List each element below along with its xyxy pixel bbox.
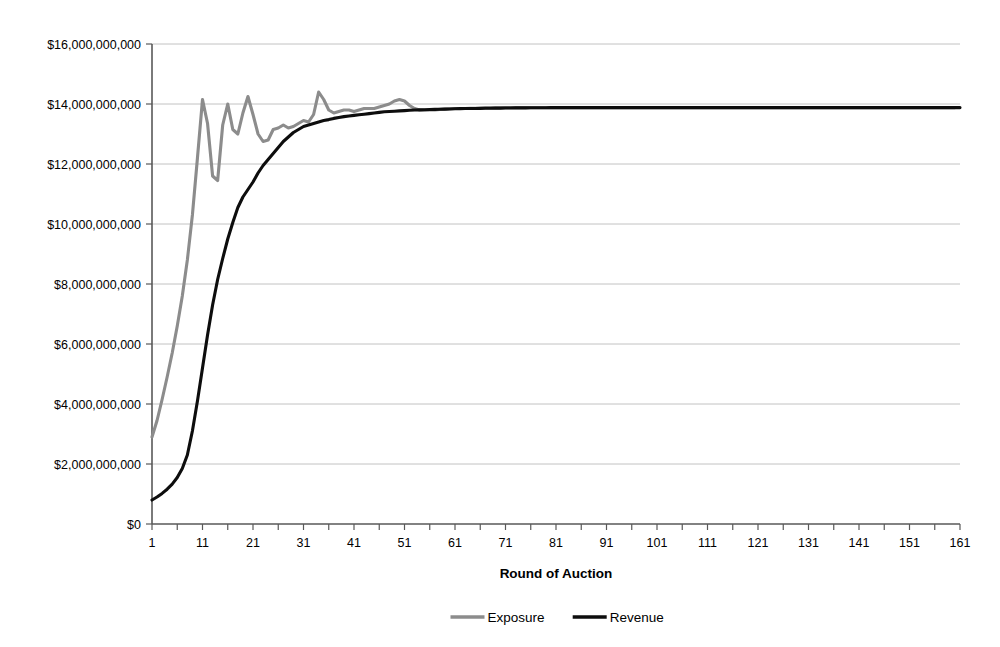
x-axis-tick-label: 151 [899, 536, 920, 550]
y-axis-tick-label: $12,000,000,000 [47, 158, 141, 172]
x-axis-tick-label: 71 [499, 536, 513, 550]
x-axis-tick-label: 161 [950, 536, 971, 550]
chart-container: $16,000,000,000$14,000,000,000$12,000,00… [0, 0, 1000, 647]
legend-label-exposure: Exposure [488, 610, 545, 625]
y-axis-tick-label: $4,000,000,000 [54, 398, 141, 412]
clipped-title-fragment [205, 0, 465, 8]
x-axis-tick-label: 1 [149, 536, 156, 550]
y-axis-tick-labels-group: $16,000,000,000$14,000,000,000$12,000,00… [47, 38, 141, 532]
series-line-revenue [152, 108, 960, 500]
y-axis-tick-label: $8,000,000,000 [54, 278, 141, 292]
y-axis-tick-label: $14,000,000,000 [47, 98, 141, 112]
data-series-group [152, 92, 960, 500]
y-axis-tick-label: $10,000,000,000 [47, 218, 141, 232]
legend: ExposureRevenue [451, 610, 664, 625]
x-axis-tick-label: 51 [398, 536, 412, 550]
x-axis-tick-label: 41 [347, 536, 361, 550]
x-axis-tick-label: 31 [297, 536, 311, 550]
x-axis-tick-labels-group: 1112131415161718191101111121131141151161 [149, 536, 971, 550]
x-axis-tick-label: 141 [849, 536, 870, 550]
x-axis-tick-label: 131 [798, 536, 819, 550]
y-axis-tick-label: $0 [127, 518, 141, 532]
x-tick-marks-group [152, 524, 960, 530]
legend-label-revenue: Revenue [610, 610, 664, 625]
series-line-exposure [152, 92, 955, 437]
y-tick-marks-group [146, 44, 152, 524]
x-axis-tick-label: 81 [549, 536, 563, 550]
x-axis-tick-label: 101 [647, 536, 668, 550]
auction-exposure-revenue-line-chart: $16,000,000,000$14,000,000,000$12,000,00… [0, 0, 1000, 647]
y-axis-tick-label: $2,000,000,000 [54, 458, 141, 472]
x-axis-tick-label: 91 [600, 536, 614, 550]
x-axis-tick-label: 121 [748, 536, 769, 550]
y-axis-tick-label: $6,000,000,000 [54, 338, 141, 352]
x-axis-tick-label: 21 [246, 536, 260, 550]
x-axis-tick-label: 111 [698, 536, 717, 550]
x-axis-title: Round of Auction [500, 566, 613, 581]
x-axis-tick-label: 11 [196, 536, 209, 550]
x-axis-tick-label: 61 [448, 536, 462, 550]
y-axis-tick-label: $16,000,000,000 [47, 38, 141, 52]
